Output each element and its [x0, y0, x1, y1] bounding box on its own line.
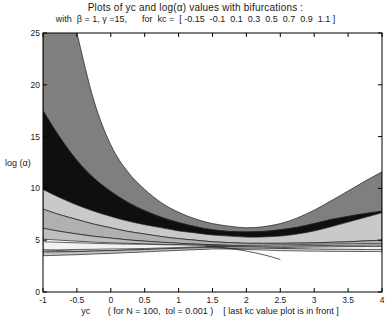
y-tick-label: 5 [35, 235, 40, 245]
x-tick-label: 0.5 [139, 295, 151, 305]
y-tick-label: 15 [31, 132, 41, 142]
y-tick-label: 10 [31, 183, 41, 193]
y-tick-label: 25 [31, 28, 41, 38]
x-tick-label: 4 [380, 295, 385, 305]
x-tick-label: 2.5 [274, 295, 286, 305]
x-tick-label: -1 [39, 295, 47, 305]
matlab-figure: Plots of yc and log(α) values with bifur… [0, 0, 391, 325]
x-tick-label: 3 [312, 295, 317, 305]
x-tick-label: -0.5 [70, 295, 85, 305]
y-tick-label: 0 [35, 287, 40, 297]
y-tick-label: 20 [31, 80, 41, 90]
x-tick-label: 1 [176, 295, 181, 305]
x-tick-label: 1.5 [207, 295, 219, 305]
x-tick-label: 2 [244, 295, 249, 305]
x-tick-label: 3.5 [342, 295, 354, 305]
x-tick-label: 0 [108, 295, 113, 305]
bifurcation-plot-canvas: -1-0.500.511.522.533.540510152025 [0, 0, 391, 325]
